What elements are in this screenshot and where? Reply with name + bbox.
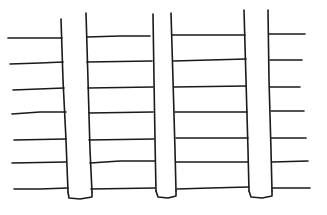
rail-3 [88, 87, 153, 88]
rail-3 [174, 86, 246, 87]
rail-7 [91, 188, 155, 189]
background [0, 0, 327, 215]
rail-6 [272, 161, 308, 162]
rail-6 [12, 162, 66, 163]
rail-5 [14, 139, 66, 140]
rail-2 [87, 61, 152, 62]
sketch-canvas [0, 0, 327, 215]
rail-5 [89, 139, 154, 140]
rail-4 [89, 112, 153, 113]
